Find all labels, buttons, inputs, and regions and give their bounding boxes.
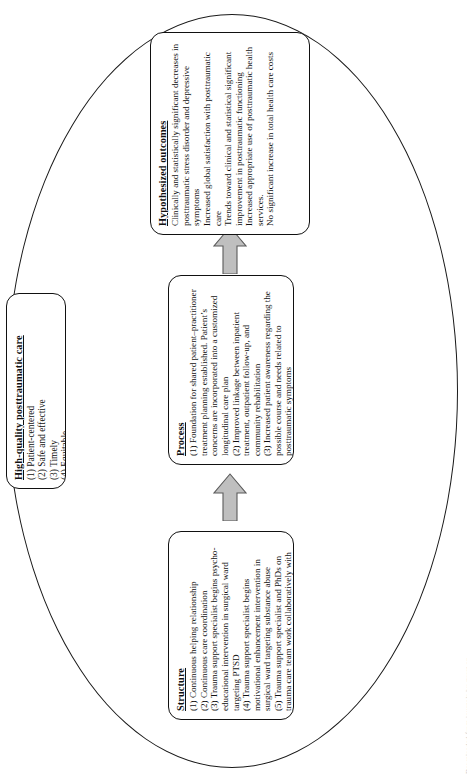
- outcomes-box: Hypothesized outcomes Clinically and sta…: [150, 32, 310, 235]
- list-item: (1) Patient-centered: [26, 302, 37, 480]
- diagram-canvas: High-quality posttraumatic care (1) Pati…: [0, 0, 468, 782]
- quality-box-title: High-quality posttraumatic care: [13, 302, 25, 480]
- structure-box-title: Structure: [175, 540, 187, 711]
- list-item: Clinically and statistically significant…: [170, 41, 202, 226]
- quality-box: High-quality posttraumatic care (1) Pati…: [6, 293, 66, 489]
- list-item: No significant increase in total health …: [265, 41, 276, 226]
- list-item: Increased global satisfaction with postt…: [202, 41, 223, 226]
- list-item: (3) Trauma support specialist begins psy…: [209, 540, 241, 711]
- list-item: (2) Safe and effective: [37, 302, 48, 480]
- edge-caption-text: Downloaded from journals by guest on: [464, 657, 467, 774]
- structure-box: Structure (1) Continuous helping relatio…: [168, 531, 294, 720]
- list-item: (2) Continuous care coordination: [199, 540, 210, 711]
- quality-box-list: (1) Patient-centered (2) Safe and effect…: [26, 302, 66, 480]
- list-item: (2) Improved linkage between inpatient t…: [231, 284, 263, 456]
- list-item: (3) Timely: [49, 302, 60, 480]
- list-item: (3) Increased patient awareness regardin…: [262, 284, 294, 456]
- process-box-title: Process: [175, 284, 187, 456]
- outcomes-box-list: Clinically and statistically significant…: [170, 41, 276, 226]
- outcomes-box-title: Hypothesized outcomes: [157, 41, 169, 226]
- edge-caption: Downloaded from journals by guest on: [455, 176, 467, 776]
- list-item: Increased appropriate use of posttraumat…: [244, 41, 265, 226]
- list-item: (4) Trauma support specialist begins mot…: [241, 540, 273, 711]
- list-item: Trends toward clinical and statistical s…: [223, 41, 244, 226]
- arrow-structure-to-process-icon: [213, 473, 247, 521]
- structure-box-list: (1) Continuous helping relationship (2) …: [188, 540, 294, 711]
- process-box-list: (1) Foundation for shared patient–practi…: [188, 284, 294, 456]
- list-item: (1) Continuous helping relationship: [188, 540, 199, 711]
- list-item: (4) Equitable: [60, 302, 66, 480]
- process-box: Process (1) Foundation for shared patien…: [168, 275, 294, 465]
- list-item: (1) Foundation for shared patient–practi…: [188, 284, 230, 456]
- list-item: (5) Trauma support specialist and PhDs o…: [273, 540, 294, 711]
